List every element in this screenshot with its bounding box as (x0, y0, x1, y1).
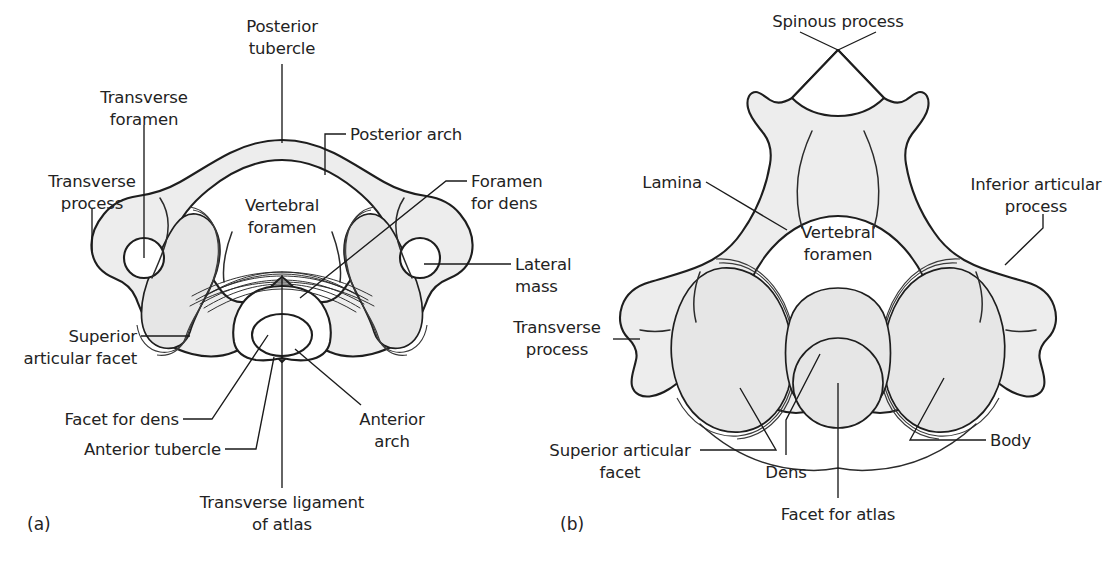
label-a-superior-articular-facet-line2: articular facet (23, 349, 137, 368)
label-b-superior-articular-facet-line1: Superior articular (549, 441, 691, 460)
label-b-transverse-process-line1: Transverse (512, 318, 601, 337)
label-transverse-ligament-line1: Transverse ligament (199, 493, 365, 512)
label-transverse-process-line1: Transverse (47, 172, 136, 191)
label-a-vertebral-foramen-line2: foramen (248, 218, 316, 237)
label-spinous-process: Spinous process (772, 12, 904, 31)
leader-spinous-process (800, 32, 876, 50)
label-lateral-mass-line2: mass (515, 277, 558, 296)
label-anterior-tubercle: Anterior tubercle (84, 440, 221, 459)
label-facet-for-dens: Facet for dens (64, 410, 179, 429)
label-foramen-for-dens-line1: Foramen (471, 172, 543, 191)
panel-letter-b: (b) (560, 514, 584, 534)
label-transverse-ligament-line2: of atlas (252, 515, 312, 534)
panel-letter-a: (a) (27, 514, 51, 534)
leader-inferior-articular-process (1005, 214, 1043, 265)
panel-b-axis: Spinous process Lamina Inferior articula… (512, 12, 1102, 534)
label-anterior-arch-line1: Anterior (359, 410, 425, 429)
anatomical-figure: Posterior tubercle Transverse foramen Tr… (0, 0, 1117, 566)
label-transverse-foramen-line2: foramen (110, 110, 178, 129)
label-transverse-process-line2: process (61, 194, 123, 213)
label-b-transverse-process-line2: process (526, 340, 588, 359)
label-transverse-foramen-line1: Transverse (99, 88, 188, 107)
label-anterior-arch-line2: arch (374, 432, 409, 451)
label-posterior-arch: Posterior arch (350, 125, 462, 144)
label-body: Body (990, 431, 1031, 450)
label-b-vertebral-foramen-line2: foramen (804, 245, 872, 264)
label-a-vertebral-foramen-line1: Vertebral (245, 196, 319, 215)
label-posterior-tubercle-line1: Posterior (246, 17, 318, 36)
label-dens: Dens (765, 463, 806, 482)
atlas-transverse-foramen-right (400, 238, 440, 278)
label-inferior-articular-process-line2: process (1005, 197, 1067, 216)
label-facet-for-atlas: Facet for atlas (781, 505, 896, 524)
label-inferior-articular-process-line1: Inferior articular (970, 175, 1101, 194)
label-lamina: Lamina (642, 173, 702, 192)
panel-a-atlas: Posterior tubercle Transverse foramen Tr… (23, 17, 571, 534)
label-foramen-for-dens-line2: for dens (471, 194, 537, 213)
leader-anterior-tubercle (225, 357, 274, 449)
figure-canvas: Posterior tubercle Transverse foramen Tr… (0, 0, 1117, 566)
label-a-superior-articular-facet-line1: Superior (68, 327, 137, 346)
label-lateral-mass-line1: Lateral (515, 255, 571, 274)
axis-spinous-notch (792, 50, 884, 116)
label-b-vertebral-foramen-line1: Vertebral (801, 223, 875, 242)
label-b-superior-articular-facet-line2: facet (600, 463, 642, 482)
label-posterior-tubercle-line2: tubercle (249, 39, 316, 58)
